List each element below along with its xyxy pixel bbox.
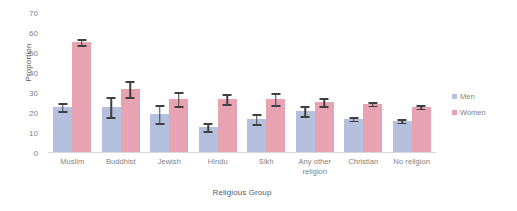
error-bar-cap-top (417, 105, 426, 107)
bar-slot (102, 13, 121, 153)
legend-label: Women (460, 108, 486, 117)
y-axis-tick: 30 (29, 89, 38, 98)
bar-women (169, 99, 188, 153)
x-axis-tick: Jewish (145, 157, 194, 177)
error-bar-cap-top (301, 106, 310, 108)
chart-legend: MenWomen (452, 92, 486, 117)
y-axis-tick: 20 (29, 109, 38, 118)
bar-women (363, 104, 382, 153)
x-axis-tick: Hindu (194, 157, 243, 177)
error-bar-line (178, 92, 180, 106)
bar-group (388, 13, 437, 153)
error-bar-cap-top (107, 97, 116, 99)
bar-group (242, 13, 291, 153)
bar-slot (266, 13, 285, 153)
error-bar-cap-top (77, 39, 86, 41)
bar-women (266, 99, 285, 153)
legend-label: Men (460, 92, 475, 101)
error-bar-cap-bottom (223, 104, 232, 106)
error-bar-cap-top (320, 98, 329, 100)
legend-swatch-icon (452, 110, 457, 115)
x-axis-tick-labels: MuslimBuddhistJewishHinduSikhAny other r… (48, 157, 436, 177)
y-axis-tick: 0 (33, 149, 38, 158)
bar-men (247, 119, 266, 153)
error-bar-line (159, 105, 161, 123)
error-bar-cap-bottom (58, 111, 67, 113)
y-axis-tick: 10 (29, 129, 38, 138)
x-axis-tick: Muslim (48, 157, 97, 177)
error-bar-line (305, 106, 307, 116)
bar-group (339, 13, 388, 153)
error-bar-cap-top (398, 119, 407, 121)
bar-slot (169, 13, 188, 153)
bar-slot (315, 13, 334, 153)
bar-slot (150, 13, 169, 153)
error-bar-cap-top (349, 117, 358, 119)
bar-slot (53, 13, 72, 153)
error-bar-cap-bottom (417, 109, 426, 111)
bar-women (315, 102, 334, 153)
plot-area (48, 13, 436, 153)
error-bar-line (227, 94, 229, 104)
x-axis-tick: Sikh (242, 157, 291, 177)
x-axis-tick: Christian (339, 157, 388, 177)
error-bar-cap-top (252, 114, 261, 116)
bar-slot (121, 13, 140, 153)
error-bar-cap-bottom (204, 131, 213, 133)
legend-item-women[interactable]: Women (452, 108, 486, 117)
error-bar-cap-top (174, 92, 183, 94)
error-bar-cap-bottom (252, 124, 261, 126)
error-bar-cap-bottom (77, 45, 86, 47)
bar-group (145, 13, 194, 153)
bar-slot (247, 13, 266, 153)
y-axis-tick: 50 (29, 49, 38, 58)
y-axis-tick: 40 (29, 69, 38, 78)
error-bar-cap-top (126, 81, 135, 83)
bar-men (393, 121, 412, 153)
bar-men (296, 111, 315, 153)
bar-group (97, 13, 146, 153)
error-bar-line (275, 93, 277, 105)
error-bar-cap-bottom (301, 116, 310, 118)
error-bar-cap-bottom (155, 123, 164, 125)
x-axis-tick: Any other religion (291, 157, 340, 177)
bar-group (48, 13, 97, 153)
y-axis-tick: 60 (29, 29, 38, 38)
bar-women (218, 99, 237, 153)
bar-women (412, 107, 431, 153)
error-bar-cap-top (155, 105, 164, 107)
bar-slot (199, 13, 218, 153)
error-bar-cap-top (223, 94, 232, 96)
bar-group (194, 13, 243, 153)
error-bar-line (256, 114, 258, 124)
bar-men (344, 119, 363, 153)
bar-men (199, 127, 218, 153)
x-axis-tick: Buddhist (97, 157, 146, 177)
error-bar-cap-top (368, 102, 377, 104)
x-axis-tick: No religion (388, 157, 437, 177)
bar-groups (48, 13, 436, 153)
bar-chart: Proportion 706050403020100 MuslimBuddhis… (0, 0, 517, 211)
error-bar-cap-bottom (126, 97, 135, 99)
bar-men (53, 107, 72, 153)
bar-slot (72, 13, 91, 153)
legend-swatch-icon (452, 94, 457, 99)
error-bar-cap-bottom (368, 106, 377, 108)
y-axis-tick: 70 (29, 9, 38, 18)
error-bar-cap-top (271, 93, 280, 95)
bar-women (121, 89, 140, 153)
error-bar-cap-top (58, 103, 67, 105)
legend-item-men[interactable]: Men (452, 92, 486, 101)
error-bar-line (130, 81, 132, 97)
bar-slot (296, 13, 315, 153)
bar-women (72, 42, 91, 153)
bar-men (150, 114, 169, 153)
error-bar-cap-bottom (271, 105, 280, 107)
x-axis-line (48, 152, 436, 153)
error-bar-cap-bottom (349, 121, 358, 123)
error-bar-line (111, 97, 113, 117)
bar-slot (218, 13, 237, 153)
bar-slot (363, 13, 382, 153)
bar-slot (412, 13, 431, 153)
error-bar-cap-top (204, 123, 213, 125)
